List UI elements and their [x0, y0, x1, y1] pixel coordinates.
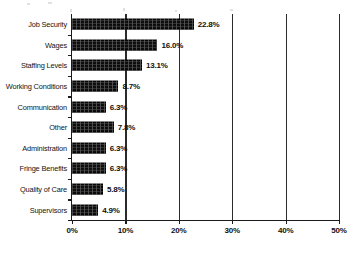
x-tick — [339, 220, 340, 224]
bar-row: Fringe Benefits6.3% — [72, 158, 339, 179]
bar-scan-texture — [72, 184, 103, 195]
x-tick — [232, 220, 233, 224]
bar-value-label: 6.3% — [110, 143, 127, 152]
bar-row: Administration6.3% — [72, 138, 339, 159]
gridline-50% — [339, 14, 340, 220]
bar-scan-texture — [72, 163, 106, 174]
x-tick-label: 30% — [224, 226, 239, 235]
category-label: Wages — [45, 40, 67, 49]
category-label: Working Conditions — [6, 82, 67, 91]
bar-value-label: 7.8% — [118, 123, 135, 132]
category-label: Staffing Levels — [21, 61, 67, 70]
bar-value-label: 6.3% — [110, 164, 127, 173]
bar-row: Other7.8% — [72, 117, 339, 138]
bar-scan-texture — [72, 60, 142, 71]
plot-area: 0%10%20%30%40%50% Job Security22.8%Wages… — [72, 14, 339, 220]
bar-value-label: 13.1% — [146, 61, 168, 70]
scan-speckle — [27, 3, 30, 5]
y-tick — [68, 220, 72, 221]
category-label: Fringe Benefits — [20, 164, 67, 173]
x-tick — [125, 220, 126, 224]
bar-scan-texture — [72, 39, 157, 50]
bar — [72, 122, 114, 133]
scan-speckle — [230, 9, 233, 11]
bar — [72, 19, 194, 30]
bar — [72, 204, 98, 215]
x-tick-label: 0% — [66, 226, 77, 235]
bar-chart: 0%10%20%30%40%50% Job Security22.8%Wages… — [0, 0, 357, 254]
bar-scan-texture — [72, 122, 114, 133]
category-label: Communication — [18, 102, 67, 111]
bar-scan-texture — [72, 142, 106, 153]
bar — [72, 60, 142, 71]
category-label: Quality of Care — [20, 185, 67, 194]
bar-value-label: 5.8% — [107, 185, 124, 194]
bar-row: Quality of Care5.8% — [72, 179, 339, 200]
x-tick — [72, 220, 73, 224]
bar-row: Supervisors4.9% — [72, 199, 339, 220]
bar-scan-texture — [72, 81, 118, 92]
x-tick — [179, 220, 180, 224]
category-label: Job Security — [28, 20, 67, 29]
x-axis-line — [71, 220, 339, 221]
x-tick-label: 50% — [331, 226, 346, 235]
bar-value-label: 6.3% — [110, 102, 127, 111]
bar-scan-texture — [72, 19, 194, 30]
bar — [72, 142, 106, 153]
bar-row: Wages16.0% — [72, 35, 339, 56]
bar-scan-texture — [72, 101, 106, 112]
scan-speckle — [175, 10, 177, 12]
bar — [72, 101, 106, 112]
bar-scan-texture — [72, 204, 98, 215]
category-label: Supervisors — [30, 205, 67, 214]
bar — [72, 81, 118, 92]
x-tick-label: 20% — [171, 226, 186, 235]
bar-value-label: 22.8% — [198, 20, 220, 29]
scan-speckle — [70, 9, 72, 12]
bar — [72, 39, 157, 50]
bar-row: Staffing Levels13.1% — [72, 55, 339, 76]
x-tick — [286, 220, 287, 224]
bar-row: Job Security22.8% — [72, 14, 339, 35]
bar-row: Communication6.3% — [72, 96, 339, 117]
category-label: Other — [49, 123, 67, 132]
category-label: Administration — [22, 143, 67, 152]
bar-value-label: 4.9% — [102, 205, 119, 214]
scan-speckle — [48, 2, 52, 4]
bar — [72, 184, 103, 195]
bar-value-label: 8.7% — [122, 82, 139, 91]
bar-value-label: 16.0% — [161, 40, 183, 49]
x-tick-label: 40% — [278, 226, 293, 235]
bar-row: Working Conditions8.7% — [72, 76, 339, 97]
scan-speckle — [123, 8, 125, 11]
bar — [72, 163, 106, 174]
x-tick-label: 10% — [118, 226, 133, 235]
